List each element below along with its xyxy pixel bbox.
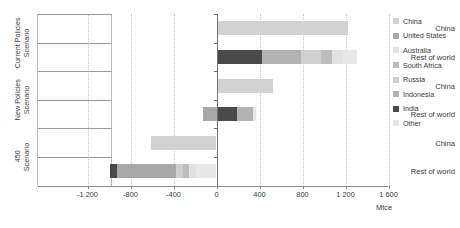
legend-label: United States — [403, 31, 446, 40]
bar-segment — [196, 164, 217, 178]
x-axis-tick — [131, 186, 132, 189]
bar-segment — [203, 107, 216, 121]
legend-item-south-africa[interactable]: South Africa — [393, 58, 459, 73]
legend-item-australia[interactable]: Australia — [393, 43, 459, 58]
legend-label: China — [403, 17, 422, 26]
x-axis-tick-label: 1 200 — [336, 190, 355, 199]
plot-area: Current Policies ScenarioNew Policies Sc… — [0, 0, 460, 228]
gridline — [303, 14, 304, 186]
x-axis-tick — [389, 186, 390, 189]
legend: ChinaUnited StatesAustraliaSouth AfricaR… — [393, 14, 459, 131]
bar-segment — [217, 21, 349, 35]
legend-item-china[interactable]: China — [393, 14, 459, 29]
legend-item-united-states[interactable]: United States — [393, 29, 459, 44]
scenario-label: Current Policies Scenario — [8, 14, 37, 71]
legend-swatch-icon — [393, 18, 399, 24]
x-axis-tick-label: -1 200 — [77, 190, 98, 199]
scenario-group-3: 450 Scenario — [8, 128, 38, 185]
gridline — [389, 14, 390, 186]
bar-segment — [176, 164, 184, 178]
gridline — [174, 14, 175, 186]
category-label: China — [435, 138, 455, 147]
bar-segment — [343, 50, 357, 64]
x-axis-tick-label: 0 — [214, 190, 218, 199]
group-divider — [38, 71, 112, 72]
coal-demand-change-chart: Current Policies ScenarioNew Policies Sc… — [0, 0, 460, 228]
zero-axis-line — [217, 14, 218, 188]
bar-segment — [110, 164, 117, 178]
legend-item-indonesia[interactable]: Indonesia — [393, 87, 459, 102]
x-axis-tick — [260, 186, 261, 189]
legend-swatch-icon — [393, 91, 399, 97]
category-label: Rest of world — [411, 167, 455, 176]
x-axis-tick-label: 1 600 — [379, 190, 398, 199]
x-axis-tick — [303, 186, 304, 189]
gridline — [131, 14, 132, 186]
legend-label: India — [403, 104, 419, 113]
legend-label: Russia — [403, 75, 425, 84]
legend-item-india[interactable]: India — [393, 102, 459, 117]
x-axis-tick-label: -400 — [166, 190, 181, 199]
x-axis-tick-label: -800 — [123, 190, 138, 199]
category-divider — [38, 100, 112, 101]
x-axis-tick-label: 400 — [253, 190, 265, 199]
bar-segment — [217, 107, 237, 121]
bar-segment — [237, 107, 253, 121]
legend-swatch-icon — [393, 33, 399, 39]
x-axis-tick — [217, 186, 218, 189]
gridline — [260, 14, 261, 186]
bar-segment — [151, 136, 217, 150]
bar-segment — [217, 50, 262, 64]
x-axis-tick — [88, 186, 89, 189]
x-axis-unit-label: Mtce — [376, 203, 392, 212]
bar-segment — [332, 50, 343, 64]
bar-segment — [217, 79, 274, 93]
scenario-label: New Policies Scenario — [8, 71, 37, 128]
x-axis-tick — [346, 186, 347, 189]
category-divider — [38, 157, 112, 158]
legend-label: Indonesia — [403, 90, 434, 99]
bar-segment — [301, 50, 321, 64]
legend-label: South Africa — [403, 61, 442, 70]
bar-segment — [321, 50, 332, 64]
legend-swatch-icon — [393, 120, 399, 126]
bar-segment — [117, 164, 176, 178]
x-axis-line — [38, 186, 388, 187]
bar-segment — [183, 164, 189, 178]
legend-swatch-icon — [393, 62, 399, 68]
scenario-group-1: Current Policies Scenario — [8, 14, 38, 71]
legend-item-other[interactable]: Other — [393, 116, 459, 131]
bar-segment — [189, 164, 195, 178]
scenario-label: 450 Scenario — [8, 128, 37, 185]
scenario-group-2: New Policies Scenario — [8, 71, 38, 128]
group-divider — [38, 14, 112, 15]
legend-swatch-icon — [393, 47, 399, 53]
x-axis-tick-label: 800 — [296, 190, 308, 199]
legend-item-russia[interactable]: Russia — [393, 72, 459, 87]
legend-label: Australia — [403, 46, 431, 55]
bar-segment — [253, 107, 256, 121]
group-divider — [38, 128, 112, 129]
legend-label: Other — [403, 119, 421, 128]
legend-swatch-icon — [393, 77, 399, 83]
bar-segment — [262, 50, 302, 64]
gridline — [346, 14, 347, 186]
x-axis-tick — [174, 186, 175, 189]
category-divider — [38, 43, 112, 44]
legend-swatch-icon — [393, 106, 399, 112]
